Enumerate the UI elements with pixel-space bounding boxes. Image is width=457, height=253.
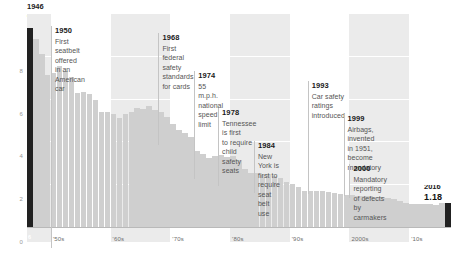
bar [170,124,176,228]
annotation-text-line: Tennessee is first [222,119,256,138]
annotation-text-line: Airbags, invented [348,125,382,144]
bar [146,106,152,228]
bar [129,112,135,228]
annotation-leader-line [158,33,159,145]
annotation-text-line: carmakers [353,213,387,223]
bar [111,114,117,228]
bar [140,109,146,228]
bar [99,112,105,228]
annotation-text-line: seats [222,166,256,176]
annotation-year: 1999 [348,114,382,123]
bar [176,130,182,228]
highlight-bar-label: 6 [446,234,449,240]
annotation-text-line: First federal safety [162,44,193,73]
bar [290,184,296,229]
annotation-body: 1950First seatbelt offeredin an American… [55,26,85,94]
bar [403,203,409,228]
bar [320,191,326,228]
annotation-text-line: First seatbelt offered [55,37,85,66]
x-tick-label: '60s [113,236,125,242]
annotation-text-line: Car safety ratings [312,92,345,111]
bar [284,182,290,228]
x-tick-label: '10s [411,236,423,242]
bar [296,187,302,228]
y-tick-label: 2 [19,196,23,202]
annotation-body: 1993Car safety ratingsintroduced [312,81,345,120]
annotation-body: 1968First federal safetystandards for ca… [162,33,193,91]
annotation-text-line: to require child safety [222,138,256,167]
annotation-body: 1978Tennessee is firstto require child s… [222,108,256,176]
bar [117,118,123,228]
annotation-year: 1978 [222,108,256,117]
annotation-year: 1950 [55,26,85,35]
annotation-leader-line [344,114,345,196]
bar [212,156,218,228]
y-tick-label: 8 [19,68,23,74]
axis-baseline [27,227,451,228]
annotation-text-line: speed limit [198,110,223,129]
annotation-body: 1984New York is first torequire seat bel… [258,141,280,218]
bar [415,204,421,228]
bar [69,77,75,229]
bar [63,71,69,229]
highlight-bar-label: 6 [28,234,31,240]
annotation-text-line: New York is first to [258,152,280,181]
bar [248,173,254,228]
annotation-leader-line [254,141,255,193]
bar [45,75,51,228]
annotation-leader-line [349,164,350,198]
bar [123,114,129,228]
bar [338,194,344,228]
annotation-year: 1974 [198,71,223,80]
annotation-body: 197455 m.p.h. nationalspeed limit [198,71,223,129]
annotation-year: 1984 [258,141,280,150]
bar [134,108,140,228]
start-year-label: 1946 [27,2,45,12]
bar [302,191,308,228]
annotation-leader-line [308,81,309,194]
annotation-body: 2000Mandatory reportingof defects bycarm… [353,164,387,222]
x-tick-label: '80s [232,236,244,242]
x-tick-label: '90s [292,236,304,242]
annotation-text-line: in 1951, become [348,144,382,163]
bar [409,204,415,228]
bar [308,191,314,228]
bar [39,54,45,228]
bar-highlighted [445,203,451,228]
bar [182,133,188,228]
bar [152,110,158,228]
annotation-text-line: standards for cards [162,72,193,91]
annotation-text-line: Mandatory reporting [353,175,387,194]
bar [200,154,206,228]
bar [87,94,93,228]
bar [332,193,338,228]
bar [391,199,397,228]
x-tick-label: 2000s [351,236,368,242]
y-tick-label: 0 [19,239,23,245]
annotation-year: 1993 [312,81,345,90]
bar [421,204,427,228]
x-tick-label: '50s [53,236,65,242]
annotation-year: 1968 [162,33,193,42]
bar [206,158,212,228]
y-tick-label: 4 [19,153,23,159]
bar [93,100,99,228]
bar [75,93,81,228]
bar [164,117,170,228]
bar-highlighted [27,28,33,228]
bar [439,203,445,228]
y-tick-label: 6 [19,111,23,117]
x-tick-label: '70s [172,236,184,242]
annotation-text-line: require seat belt use [258,180,280,218]
bar [81,92,87,228]
annotation-leader-line [218,108,219,186]
annotation-year: 2000 [353,164,387,173]
annotation-text-line: in an American car [55,65,85,94]
annotation-leader-line [194,71,195,179]
annotation-text-line: of defects by [353,194,387,213]
annotation-text-line: introduced [312,111,345,121]
bar [188,137,194,228]
bar [105,112,111,228]
fatality-rate-chart: 1946 9.35 2016 1.18 86420 '50s'60s'70s'8… [0,0,457,253]
bar [33,39,39,228]
